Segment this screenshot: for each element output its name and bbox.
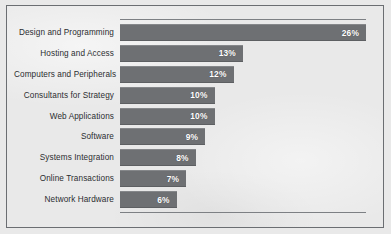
- bar-chart: Design and Programming 26% Hosting and A…: [0, 0, 391, 234]
- bar-value-label: 9%: [186, 132, 206, 142]
- bar: 13%: [120, 45, 243, 62]
- bar-track: 26%: [120, 24, 375, 41]
- bar-track: 10%: [120, 108, 375, 125]
- bar-value-label: 10%: [190, 111, 214, 121]
- bar-row: Online Transactions 7%: [14, 170, 375, 187]
- category-label: Systems Integration: [14, 153, 120, 162]
- category-label: Software: [14, 132, 120, 141]
- plot-area: Design and Programming 26% Hosting and A…: [14, 12, 375, 220]
- axis-rule-top: [120, 19, 366, 20]
- bar: 6%: [120, 191, 177, 208]
- bar-track: 12%: [120, 66, 375, 83]
- category-label: Design and Programming: [14, 28, 120, 37]
- bar-value-label: 12%: [209, 69, 233, 79]
- bar-row: Software 9%: [14, 128, 375, 145]
- bar-row: Computers and Peripherals 12%: [14, 66, 375, 83]
- bar-track: 9%: [120, 128, 375, 145]
- bar: 9%: [120, 128, 205, 145]
- bar-track: 7%: [120, 170, 375, 187]
- bar-row: Design and Programming 26%: [14, 24, 375, 41]
- category-label: Consultants for Strategy: [14, 91, 120, 100]
- bar-row: Web Applications 10%: [14, 108, 375, 125]
- bar-value-label: 26%: [342, 28, 366, 38]
- bar-value-label: 13%: [219, 48, 243, 58]
- bar-row: Hosting and Access 13%: [14, 45, 375, 62]
- bar-value-label: 6%: [157, 195, 177, 205]
- bar-row: Network Hardware 6%: [14, 191, 375, 208]
- category-label: Hosting and Access: [14, 49, 120, 58]
- bar: 7%: [120, 170, 186, 187]
- bar-rows: Design and Programming 26% Hosting and A…: [14, 24, 375, 208]
- bar-track: 13%: [120, 45, 375, 62]
- axis-rule-bottom: [120, 212, 366, 213]
- bar: 10%: [120, 108, 215, 125]
- category-label: Computers and Peripherals: [14, 70, 120, 79]
- bar-value-label: 10%: [190, 90, 214, 100]
- bar: 12%: [120, 66, 234, 83]
- bar: 26%: [120, 24, 366, 41]
- bar-track: 8%: [120, 149, 375, 166]
- chart-border: Design and Programming 26% Hosting and A…: [6, 5, 384, 228]
- bar-value-label: 8%: [176, 153, 196, 163]
- bar-value-label: 7%: [167, 174, 187, 184]
- bar-track: 10%: [120, 87, 375, 104]
- category-label: Network Hardware: [14, 195, 120, 204]
- bar: 8%: [120, 149, 196, 166]
- bar-track: 6%: [120, 191, 375, 208]
- bar: 10%: [120, 87, 215, 104]
- bar-row: Consultants for Strategy 10%: [14, 87, 375, 104]
- category-label: Online Transactions: [14, 174, 120, 183]
- category-label: Web Applications: [14, 112, 120, 121]
- bar-row: Systems Integration 8%: [14, 149, 375, 166]
